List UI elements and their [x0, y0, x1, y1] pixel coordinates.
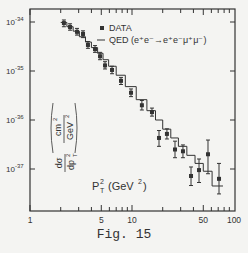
- data-point: [206, 140, 210, 174]
- y-unit-numerator: cm: [53, 124, 63, 136]
- svg-text:2: 2: [64, 114, 70, 118]
- legend: DATA QED (e⁺e⁻→e⁺e⁻μ⁺μ⁻): [97, 23, 206, 45]
- data-point: [150, 108, 154, 116]
- y-tick-label: 10-34: [6, 16, 24, 27]
- data-point: [75, 28, 79, 35]
- data-point: [129, 89, 133, 97]
- x-tick-label: 100: [227, 215, 241, 225]
- svg-text:T: T: [100, 187, 105, 194]
- data-point: [157, 131, 161, 147]
- data-point: [119, 77, 123, 84]
- y-tick-label: 10-37: [6, 163, 24, 174]
- data-point: [217, 163, 221, 194]
- x-tick-label: 50: [199, 215, 209, 225]
- svg-text:2: 2: [65, 153, 71, 157]
- x-label-symbol: P: [92, 180, 99, 192]
- data-point: [165, 129, 169, 139]
- x-label-unit: (GeV: [108, 180, 134, 192]
- legend-label-qed: QED (e⁺e⁻→e⁺e⁻μ⁺μ⁻): [109, 35, 206, 45]
- legend-marker-data: [100, 26, 104, 30]
- data-point: [197, 159, 201, 183]
- y-unit-denominator: GeV: [65, 122, 75, 140]
- y-tick-labels: 10-3410-3510-3610-37: [6, 16, 24, 174]
- data-point: [110, 66, 114, 73]
- x-axis-label: P 2 T (GeV 2 ): [92, 178, 147, 194]
- svg-text:2: 2: [100, 178, 104, 185]
- y-label-denominator: dp: [66, 160, 76, 170]
- data-point: [173, 141, 177, 158]
- svg-text:2: 2: [138, 178, 142, 185]
- x-tick-label: 10: [127, 215, 137, 225]
- data-points: [62, 20, 221, 194]
- data-point: [103, 62, 107, 69]
- data-point: [93, 46, 97, 53]
- y-tick-label: 10-35: [6, 65, 24, 76]
- data-point: [189, 167, 193, 186]
- figure-caption: Fig. 15: [0, 227, 248, 242]
- svg-text:2: 2: [52, 117, 58, 121]
- data-point: [68, 24, 72, 30]
- svg-text:T: T: [72, 153, 78, 157]
- x-tick-label: 1: [28, 215, 33, 225]
- y-tick-label: 10-36: [6, 114, 24, 125]
- x-tick-labels: 151050100: [28, 215, 242, 225]
- data-point: [62, 20, 66, 27]
- svg-text:): ): [143, 180, 147, 192]
- figure-plot: 151050100 10-3410-3510-3610-37 DATA QED …: [0, 0, 248, 253]
- legend-label-data: DATA: [109, 23, 132, 33]
- x-tick-label: 5: [99, 215, 104, 225]
- y-label-numerator: dσ: [54, 157, 64, 168]
- data-point: [140, 101, 144, 110]
- y-axis-label: dσ dp 2 T cm 2 GeV 2: [51, 103, 78, 172]
